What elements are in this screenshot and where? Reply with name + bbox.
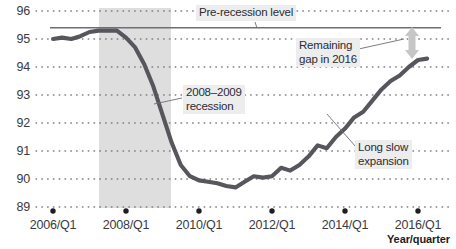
y-tick-label: 96	[4, 4, 30, 18]
line-chart-plot	[0, 0, 456, 249]
annotation-long-slow-expansion: Long slow expansion	[355, 140, 412, 169]
annotation-pre-recession-level: Pre-recession level	[196, 5, 296, 21]
y-tick-label: 89	[4, 200, 30, 214]
x-tick-label: 2014/Q1	[310, 218, 380, 232]
annotation-recession: 2008–2009 recession	[183, 85, 245, 114]
x-tick-label: 2006/Q1	[18, 218, 88, 232]
x-tick-label: 2012/Q1	[237, 218, 307, 232]
x-axis-tick-dots	[50, 208, 420, 213]
x-tick-label: 2016/Q1	[383, 218, 453, 232]
remaining-gap-arrow	[405, 27, 419, 59]
y-tick-label: 90	[4, 172, 30, 186]
y-tick-label: 92	[4, 116, 30, 130]
y-tick-label: 95	[4, 32, 30, 46]
x-tick-label: 2008/Q1	[91, 218, 161, 232]
x-axis-title: Year/quarter	[387, 233, 450, 245]
y-tick-label: 93	[4, 88, 30, 102]
annotation-remaining-gap: Remaining gap in 2016	[296, 38, 360, 67]
chart-container: 96 95 94 93 92 91 90 89 2006/Q1 2008/Q1 …	[0, 0, 456, 249]
x-tick-label: 2010/Q1	[164, 218, 234, 232]
y-tick-label: 94	[4, 60, 30, 74]
y-tick-label: 91	[4, 144, 30, 158]
